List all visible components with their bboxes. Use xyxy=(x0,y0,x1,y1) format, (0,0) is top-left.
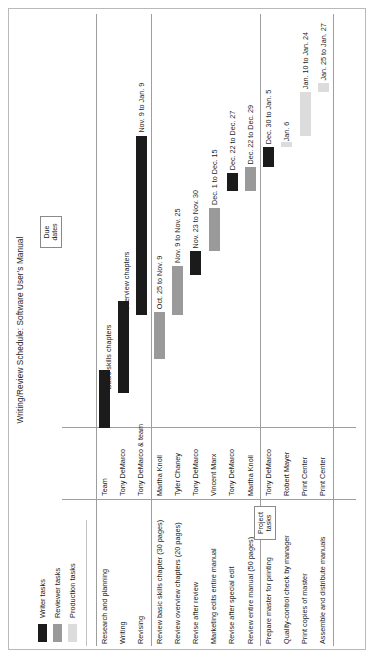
callout-project-tasks-line2: tasks xyxy=(265,510,273,536)
callout-due-dates: Due dates xyxy=(40,216,62,248)
row-task-label: Marketing edits entire manual xyxy=(205,548,223,644)
gantt-bar-writer[interactable] xyxy=(227,173,238,190)
legend-item-reviewer: Reviewer tasks xyxy=(51,522,64,642)
gantt-bar-date-label: Jan. 6 xyxy=(281,122,292,145)
gantt-bar-writer[interactable] xyxy=(263,147,274,167)
page-title: Writing/Review Schedule: Software User's… xyxy=(16,0,25,660)
gantt-bar-date-label: Jan. 10 to Jan. 24 xyxy=(300,32,311,92)
row-team-member: Team xyxy=(96,478,114,496)
group-divider xyxy=(260,14,261,646)
legend-label-production: Production tasks xyxy=(68,563,77,618)
row-team-member: Vincent Marx xyxy=(205,454,223,496)
row-task-label: Revise after special edit xyxy=(223,567,241,644)
gantt-bar-note: Basic skills chapters xyxy=(104,325,113,390)
callout-due-dates-line2: dates xyxy=(51,220,59,244)
legend-swatch-reviewer xyxy=(53,624,62,642)
gantt-bar-date-label: Nov. 9 to Nov. 25 xyxy=(172,208,183,265)
row-task-label: Research and planning xyxy=(96,569,114,644)
gantt-bar-date-label: Oct. 25 to Nov. 9 xyxy=(154,256,165,312)
callout-due-dates-line1: Due xyxy=(43,220,51,244)
gantt-bar-date-label: Nov. 23 to Nov. 30 xyxy=(190,190,201,251)
gantt-bar-reviewer[interactable] xyxy=(209,208,220,251)
legend-divider xyxy=(86,520,87,646)
row-task-label: Assemble and distribute manuals xyxy=(314,537,332,644)
row-task-label: Print copies of master xyxy=(296,573,314,644)
legend-swatch-writer xyxy=(38,624,47,642)
callout-project-tasks-line1: Project xyxy=(257,510,265,536)
legend-label-writer: Writer tasks xyxy=(38,579,47,618)
row-team-member: Tony DeMarco xyxy=(260,449,278,496)
group-divider xyxy=(151,14,152,646)
gantt-bar-reviewer[interactable] xyxy=(172,266,183,315)
gantt-bar-date-label: Dec. 22 to Dec. 29 xyxy=(245,105,256,168)
gantt-bar-date-label: Jan. 25 to Jan. 27 xyxy=(318,23,329,83)
row-task-label: Review basic skills chapter (30 pages) xyxy=(151,520,169,644)
row-task-label: Review entire manual (50 pages) xyxy=(242,537,260,644)
row-team-member: Tyler Chaney xyxy=(169,453,187,496)
row-team-member: Tony DeMarco & team xyxy=(132,424,150,496)
row-team-member: Martha Knoll xyxy=(242,455,260,496)
legend-label-reviewer: Reviewer tasks xyxy=(53,568,62,618)
gantt-bar-production[interactable] xyxy=(318,84,329,93)
legend-swatch-production xyxy=(68,624,77,642)
gantt-chart-body: Research and planningTeamWritingTony DeM… xyxy=(96,14,354,646)
gantt-figure: Writing/Review Schedule: Software User's… xyxy=(0,0,376,660)
gantt-bar-date-label: Dec. 1 to Dec. 15 xyxy=(209,149,220,208)
gantt-bar-reviewer[interactable] xyxy=(245,167,256,190)
gantt-bar-production[interactable] xyxy=(300,92,311,135)
row-team-member: Martha Knoll xyxy=(151,455,169,496)
row-team-member: Print Center xyxy=(314,457,332,496)
gantt-rows: Research and planningTeamWritingTony DeM… xyxy=(96,14,354,646)
row-team-member: Tony DeMarco xyxy=(223,449,241,496)
row-task-label: Prepare master for printing xyxy=(260,557,278,644)
gantt-bar-writer[interactable] xyxy=(190,251,201,274)
gantt-bar-date-label: Nov. 9 to Jan. 9 xyxy=(136,83,147,136)
row-team-member: Tony DeMarco xyxy=(187,449,205,496)
row-task-label: Writing xyxy=(114,621,132,644)
row-task-label: Revise after review xyxy=(187,582,205,644)
row-team-member: Robert Mayer xyxy=(278,452,296,496)
gantt-bar-note: Overview chapters xyxy=(122,252,131,312)
plot-bottom-boundary xyxy=(333,14,334,646)
gantt-bar-date-label: Dec. 22 to Dec. 27 xyxy=(227,111,238,174)
row-task-label: Review overview chapters (20 pages) xyxy=(169,522,187,644)
callout-project-tasks: Project tasks xyxy=(254,506,276,540)
gantt-bar-writer[interactable] xyxy=(118,301,129,394)
row-task-label: Quality-control check by manager xyxy=(278,535,296,644)
row-task-label: Revising xyxy=(132,616,150,644)
legend-item-production: Production tasks xyxy=(66,522,79,642)
gantt-bar-reviewer[interactable] xyxy=(154,312,165,358)
row-team-member: Print Center xyxy=(296,457,314,496)
row-team-member: Tony DeMarco xyxy=(114,449,132,496)
legend: Writer tasks Reviewer tasks Production t… xyxy=(36,522,81,642)
legend-item-writer: Writer tasks xyxy=(36,522,49,642)
gantt-bar-writer[interactable] xyxy=(136,136,147,315)
rotated-page-wrapper: Writing/Review Schedule: Software User's… xyxy=(0,0,376,660)
gantt-bar-date-label: Dec. 30 to Jan. 5 xyxy=(263,90,274,147)
plot-top-boundary xyxy=(96,14,97,646)
